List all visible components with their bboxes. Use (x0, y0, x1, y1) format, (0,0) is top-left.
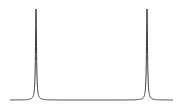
spectrum-plot (0, 0, 182, 112)
spectrum-trace (10, 9, 173, 100)
